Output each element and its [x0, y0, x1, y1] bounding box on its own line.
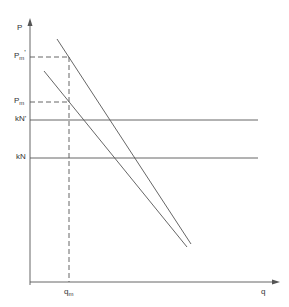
x-axis-label: q: [261, 287, 265, 296]
qm-label: qm: [64, 287, 73, 296]
kn-label: kN: [16, 152, 26, 161]
pm-prime-label: Pm': [14, 51, 26, 60]
pm-sub: m: [19, 100, 24, 106]
pm-prime-sup: ': [24, 48, 26, 57]
x-axis-arrow-icon: [272, 280, 280, 285]
kn-prime-label: kN': [15, 114, 26, 123]
diagram-graphics: [0, 0, 289, 307]
price-quantity-diagram: P Pm' Pm kN' kN qm q: [0, 0, 289, 307]
pm-label: Pm: [14, 96, 24, 105]
y-axis-arrow-icon: [28, 18, 33, 26]
qm-sub: m: [68, 291, 73, 297]
y-axis-label: P: [17, 23, 22, 32]
demand-curve-lower: [44, 71, 187, 247]
demand-curve-upper: [57, 39, 191, 244]
